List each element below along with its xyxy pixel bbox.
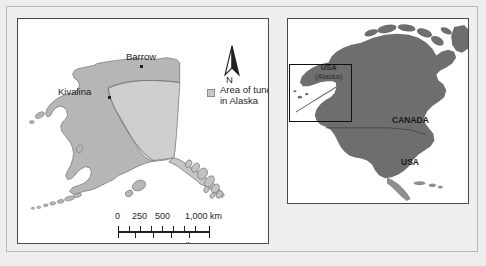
city-marker-kivalina	[108, 96, 111, 99]
central-america	[387, 177, 411, 201]
legend-label-line2: in Alaska	[220, 95, 258, 106]
aleutian-islands	[31, 192, 82, 209]
map-figure: Barrow Kivalina N Area of tundra in Alas…	[0, 0, 486, 266]
legend-swatch-tundra	[207, 89, 215, 97]
scale-label-miles: 500 miles	[159, 240, 200, 244]
north-america-inset-panel: USA (Alaska) CANADA USA	[287, 18, 469, 204]
alaska-south-islands	[124, 178, 147, 198]
scale-bar-miles	[118, 232, 210, 238]
alaska-map-panel: Barrow Kivalina N Area of tundra in Alas…	[17, 18, 269, 244]
label-usa-alaska-line1: USA	[315, 63, 343, 72]
legend-label-line1: Area of tundra	[220, 84, 269, 95]
scale-label-0: 0	[115, 211, 120, 221]
scale-label-500: 500	[155, 211, 170, 221]
scale-label-250: 250	[132, 211, 147, 221]
greenland-edge	[451, 25, 468, 53]
label-usa-alaska: USA (Alaska)	[315, 63, 343, 82]
city-label-kivalina: Kivalina	[58, 87, 91, 98]
legend-label-tundra: Area of tundra in Alaska	[220, 85, 269, 107]
map-scale-bar: 0 250 500 1,000 km 500 miles	[115, 211, 233, 244]
caribbean-islands	[414, 181, 443, 188]
north-arrow-icon	[221, 45, 243, 77]
label-usa-alaska-line2: (Alaska)	[315, 72, 343, 81]
city-label-barrow: Barrow	[126, 52, 156, 63]
country-label-canada: CANADA	[392, 115, 429, 125]
country-label-usa: USA	[401, 157, 419, 167]
scale-label-1000km: 1,000 km	[185, 211, 222, 221]
city-marker-barrow	[140, 65, 143, 68]
